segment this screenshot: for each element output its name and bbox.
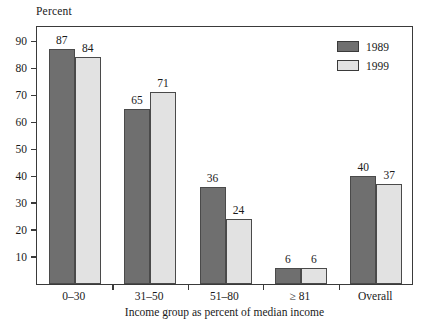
y-tick-mark <box>31 122 37 123</box>
y-tick-label: 70 <box>7 87 27 103</box>
bar-1989-0–30 <box>49 49 75 284</box>
bar-value-label: 71 <box>150 77 176 90</box>
x-axis-label-2: 51–80 <box>187 290 262 302</box>
bar-value-label: 24 <box>226 204 252 217</box>
x-axis-label-3: ≥ 81 <box>262 290 337 302</box>
y-tick-label: 30 <box>7 195 27 211</box>
bar-chart: Percent 102030405060708090 8784657136246… <box>0 0 430 329</box>
bar-value-label: 65 <box>124 94 150 107</box>
bar-1999-31–50 <box>150 92 176 284</box>
x-axis-label-4: Overall <box>338 290 413 302</box>
y-tick-mark <box>31 68 37 69</box>
y-tick-label: 80 <box>7 60 27 76</box>
y-tick-label: 60 <box>7 114 27 130</box>
bar-value-label: 37 <box>376 169 402 182</box>
y-axis-caption: Percent <box>36 5 72 17</box>
bar-1999-Overall <box>376 184 402 284</box>
y-tick-mark <box>31 229 37 230</box>
y-tick-label: 10 <box>7 249 27 265</box>
y-tick-label: 50 <box>7 141 27 157</box>
y-tick-label: 40 <box>7 168 27 184</box>
legend-item-1989: 1989 <box>337 39 407 54</box>
bar-1989-51–80 <box>200 187 226 284</box>
bar-value-label: 6 <box>275 253 301 266</box>
y-tick-mark <box>31 149 37 150</box>
y-tick-mark <box>31 95 37 96</box>
bar-value-label: 87 <box>49 34 75 47</box>
y-tick-mark <box>31 176 37 177</box>
legend-swatch-icon <box>337 60 359 71</box>
y-tick-mark <box>31 41 37 42</box>
y-tick-label: 90 <box>7 33 27 49</box>
bar-1999-≥ 81 <box>301 268 327 284</box>
bar-value-label: 36 <box>200 172 226 185</box>
chart-legend: 19891999 <box>337 39 407 77</box>
bar-value-label: 84 <box>75 42 101 55</box>
bar-1989-≥ 81 <box>275 268 301 284</box>
y-tick-mark <box>31 202 37 203</box>
bar-1989-31–50 <box>124 109 150 284</box>
legend-item-1999: 1999 <box>337 58 407 73</box>
x-axis-label-0: 0–30 <box>36 290 111 302</box>
bar-1999-0–30 <box>75 57 101 284</box>
x-axis-title: Income group as percent of median income <box>36 306 413 318</box>
legend-swatch-icon <box>337 41 359 52</box>
bar-value-label: 40 <box>350 161 376 174</box>
legend-label: 1999 <box>366 60 389 72</box>
y-tick-label: 20 <box>7 222 27 238</box>
y-tick-mark <box>31 256 37 257</box>
x-axis-label-1: 31–50 <box>111 290 186 302</box>
bar-1989-Overall <box>350 176 376 284</box>
legend-label: 1989 <box>366 41 389 53</box>
bar-1999-51–80 <box>226 219 252 284</box>
bar-value-label: 6 <box>301 253 327 266</box>
